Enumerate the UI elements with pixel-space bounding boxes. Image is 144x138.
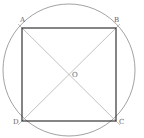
square-inscribed-in-circle-diagram: A B C D O (0, 0, 144, 138)
label-c: C (119, 118, 124, 126)
label-o: O (72, 71, 78, 79)
label-b: B (114, 16, 119, 24)
label-a: A (19, 16, 26, 24)
label-d: D (13, 118, 19, 126)
